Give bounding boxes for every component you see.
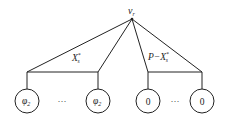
- leaf-label-4: 0: [200, 97, 205, 107]
- leaf-label-1: φ2: [22, 96, 30, 107]
- edge-label-right: P−X*s: [147, 51, 169, 63]
- leaf-label-2: φ2: [93, 96, 101, 107]
- root-label: vr: [128, 5, 135, 17]
- edge-label-left: X*s: [71, 52, 81, 64]
- ellipsis-left: ···: [58, 96, 67, 106]
- edge-root-right-inner: [132, 19, 148, 72]
- root-node-dot: [131, 18, 134, 21]
- leaf-label-3: 0: [146, 97, 151, 107]
- ellipsis-right: ···: [171, 96, 180, 106]
- edge-root-left-inner: [98, 19, 132, 72]
- tree-diagram: vr X*s P−X*s φ2 φ2 0 0 ··· ···: [0, 0, 226, 124]
- edge-root-right-outer: [132, 19, 202, 72]
- edge-root-left-outer: [27, 19, 132, 72]
